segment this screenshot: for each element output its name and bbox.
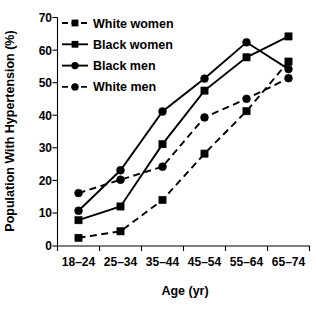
data-point: [201, 75, 209, 83]
data-point: [201, 87, 208, 94]
legend-label: Black women: [93, 38, 173, 52]
legend-item-white-women: White women: [62, 17, 174, 31]
data-point: [243, 108, 250, 115]
y-tick-label: 30: [39, 141, 53, 155]
x-tick-label: 55–64: [230, 255, 264, 269]
data-point: [159, 163, 167, 171]
data-point: [117, 176, 125, 184]
x-tick-label: 25–34: [104, 255, 138, 269]
chart-canvas: Population With Hypertension (%) 70 60 5…: [0, 0, 316, 311]
x-axis-title: Age (yr): [161, 284, 208, 298]
y-tick-label: 40: [39, 109, 53, 123]
data-point: [117, 228, 124, 235]
x-tick-label: 18–24: [62, 255, 96, 269]
chart-legend: White womenBlack womenBlack menWhite men: [62, 17, 174, 95]
data-point: [243, 95, 251, 103]
data-point: [75, 234, 82, 241]
data-point: [75, 217, 82, 224]
x-tick-label: 45–54: [188, 255, 222, 269]
data-point: [159, 108, 167, 116]
legend-marker: [72, 41, 79, 48]
x-tick-label: 65–74: [272, 255, 306, 269]
legend-label: White women: [93, 17, 174, 31]
y-axis-title: Population With Hypertension (%): [3, 30, 17, 231]
hypertension-by-age-chart: Population With Hypertension (%) 70 60 5…: [0, 0, 316, 311]
y-axis-ticks: [53, 18, 58, 247]
y-tick-label: 70: [39, 11, 53, 25]
x-axis-ticks: [58, 246, 310, 251]
legend-marker: [71, 83, 78, 90]
legend-item-white-men: White men: [62, 80, 156, 94]
data-point: [117, 166, 125, 174]
legend-label: Black men: [93, 59, 156, 73]
data-point: [285, 65, 293, 73]
x-tick-label: 35–44: [146, 255, 180, 269]
legend-item-black-women: Black women: [62, 38, 173, 52]
legend-marker: [71, 62, 78, 69]
legend-item-black-men: Black men: [62, 59, 156, 73]
data-point: [117, 203, 124, 210]
data-point: [285, 74, 293, 82]
y-tick-label: 0: [45, 239, 52, 253]
data-point: [243, 54, 250, 61]
data-point: [159, 196, 166, 203]
legend-marker: [72, 20, 79, 27]
y-axis-tick-labels: 70 60 50 40 30 20 10 0: [39, 11, 53, 253]
data-point: [285, 58, 292, 65]
y-tick-label: 50: [39, 76, 53, 90]
data-point: [75, 207, 83, 215]
y-tick-label: 20: [39, 174, 53, 188]
x-axis-tick-labels: 18–24 25–34 35–44 45–54 55–64 65–74: [62, 255, 306, 269]
legend-label: White men: [93, 80, 156, 94]
data-point: [243, 38, 251, 46]
data-point: [201, 113, 209, 121]
data-point: [285, 33, 292, 40]
data-point: [201, 150, 208, 157]
y-tick-label: 60: [39, 44, 53, 58]
data-point: [75, 189, 83, 197]
data-point: [159, 141, 166, 148]
y-tick-label: 10: [39, 206, 53, 220]
